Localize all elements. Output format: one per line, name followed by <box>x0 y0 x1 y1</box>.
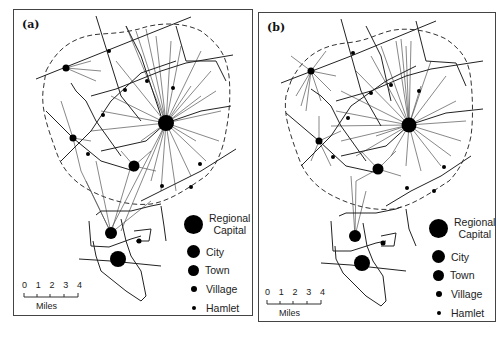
hamlet-marker <box>189 185 193 189</box>
scale-line <box>265 299 325 307</box>
hamlet-marker <box>198 162 202 166</box>
village-marker <box>308 68 315 75</box>
legend-label: City <box>451 251 469 263</box>
town-marker <box>373 164 384 175</box>
hamlet-marker <box>417 89 421 93</box>
map-panel-a: (a) <box>13 9 253 316</box>
hamlet-marker <box>123 88 127 92</box>
village-marker <box>316 138 323 145</box>
village-symbol <box>436 291 442 297</box>
town-symbol <box>433 270 444 281</box>
hamlet-symbol <box>437 311 441 315</box>
legend-label: Hamlet <box>451 307 484 319</box>
city-symbol <box>187 245 200 258</box>
village-marker <box>70 135 77 142</box>
scale-tick-label: 1 <box>279 287 284 297</box>
hamlet-marker <box>351 51 355 55</box>
legend-label: Regional <box>209 212 250 224</box>
legend-label: Capital <box>213 224 246 236</box>
legend-b: RegionalCapital City Town Village Hamlet <box>429 216 497 321</box>
scale-tick-label: 0 <box>265 287 270 297</box>
city-marker <box>349 230 361 242</box>
town-marker <box>129 161 140 172</box>
scale-tick-label: 3 <box>63 280 68 290</box>
legend-item-village: Village <box>436 288 482 300</box>
scale-tick-label: 2 <box>49 280 54 290</box>
city-marker <box>354 255 370 271</box>
hamlet-marker <box>369 91 373 95</box>
hamlet-marker <box>346 116 350 120</box>
legend-a: RegionalCapital City Town Village Hamlet <box>184 212 254 317</box>
city-symbol <box>432 250 445 263</box>
legend-label: Village <box>206 283 237 295</box>
scale-tick-label: 3 <box>306 287 311 297</box>
legend-label: Village <box>451 288 482 300</box>
service-lines-capital <box>331 39 466 171</box>
hamlet-marker <box>107 49 111 53</box>
village-marker <box>137 239 142 244</box>
legend-label: Town <box>450 269 475 281</box>
legend-item-hamlet: Hamlet <box>437 307 484 319</box>
hamlet-marker <box>101 113 105 117</box>
legend-label: Regional <box>454 216 495 228</box>
legend-label: Capital <box>458 228 491 240</box>
hamlet-marker <box>405 186 409 190</box>
service-lines-towns <box>291 51 401 236</box>
hamlet-marker <box>442 165 446 169</box>
scale-bar-b: 0 1 2 3 4 Miles <box>265 287 325 323</box>
scale-tick-label: 4 <box>320 287 325 297</box>
legend-item-hamlet: Hamlet <box>192 302 239 314</box>
scale-unit: Miles <box>279 308 300 318</box>
legend-item-town: Town <box>433 269 475 281</box>
hamlet-marker <box>389 83 393 87</box>
map-panel-b: (b) <box>258 12 496 322</box>
regional-capital-symbol <box>184 215 203 234</box>
regional-capital-symbol <box>429 219 448 238</box>
scale-unit: Miles <box>36 301 57 311</box>
hamlet-marker <box>331 155 335 159</box>
regional-capital-marker <box>158 115 174 131</box>
legend-label: Hamlet <box>206 302 239 314</box>
village-symbol <box>191 286 197 292</box>
legend-label: Town <box>205 264 230 276</box>
legend-item-regional-capital: RegionalCapital <box>429 216 495 240</box>
scale-tick-label: 2 <box>292 287 297 297</box>
hamlet-marker <box>145 79 149 83</box>
service-lines-capital <box>91 26 221 231</box>
legend-item-village: Village <box>191 283 237 295</box>
town-symbol <box>188 265 199 276</box>
hamlet-symbol <box>192 306 196 310</box>
legend-label: City <box>206 246 224 258</box>
legend-item-town: Town <box>188 264 230 276</box>
scale-tick-label: 1 <box>36 280 41 290</box>
scale-line <box>22 292 82 300</box>
legend-item-regional-capital: RegionalCapital <box>184 212 250 236</box>
city-marker <box>110 251 126 267</box>
city-marker <box>105 227 117 239</box>
hamlet-marker <box>432 189 436 193</box>
hamlet-marker <box>171 86 175 90</box>
hamlet-marker <box>160 184 164 188</box>
scale-tick-label: 0 <box>22 280 27 290</box>
hamlet-marker <box>86 152 90 156</box>
regional-capital-marker <box>402 118 417 133</box>
village-marker <box>381 241 386 246</box>
legend-item-city: City <box>187 245 224 258</box>
legend-item-city: City <box>432 250 469 263</box>
scale-bar-a: 0 1 2 3 4 Miles <box>22 280 82 316</box>
village-marker <box>63 65 70 72</box>
scale-tick-label: 4 <box>77 280 82 290</box>
